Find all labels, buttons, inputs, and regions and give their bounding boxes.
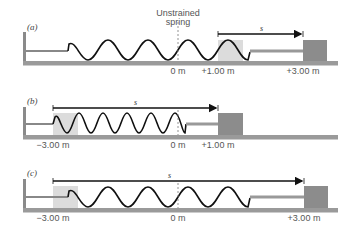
wall	[23, 32, 26, 64]
wall	[23, 179, 26, 211]
displacement-symbol: s	[260, 24, 263, 33]
panel-c: (c) s −3.00 m 0 m +3.00 m	[23, 168, 338, 223]
position-label: +3.00 m	[288, 213, 321, 223]
position-label: +1.00 m	[202, 140, 235, 150]
displacement-symbol: s	[134, 98, 137, 107]
panel-a: (a) s 0 m +1.00 m +3.00 m	[23, 22, 338, 76]
block	[303, 40, 327, 61]
panel-label: (b)	[27, 96, 38, 106]
spring-block-diagram: Unstrained spring (a) s 0 m +1.00 m +3.0…	[0, 0, 359, 231]
panel-label: (a)	[27, 22, 38, 32]
position-label: −3.00 m	[37, 213, 70, 223]
wall	[23, 107, 26, 138]
floor	[23, 61, 338, 65]
position-label: +1.00 m	[202, 66, 235, 76]
floor	[23, 135, 338, 139]
position-label: 0 m	[170, 66, 185, 76]
spring	[68, 187, 250, 207]
position-label: +3.00 m	[287, 66, 320, 76]
floor	[23, 208, 338, 212]
position-label: −3.00 m	[37, 140, 70, 150]
block	[304, 186, 328, 208]
panel-label: (c)	[27, 168, 37, 178]
displacement-symbol: s	[168, 171, 171, 180]
panel-b: (b) s −3.00 m 0 m +1.00 m	[23, 96, 338, 150]
position-label: 0 m	[170, 140, 185, 150]
position-label: 0 m	[170, 213, 185, 223]
block	[218, 113, 243, 135]
